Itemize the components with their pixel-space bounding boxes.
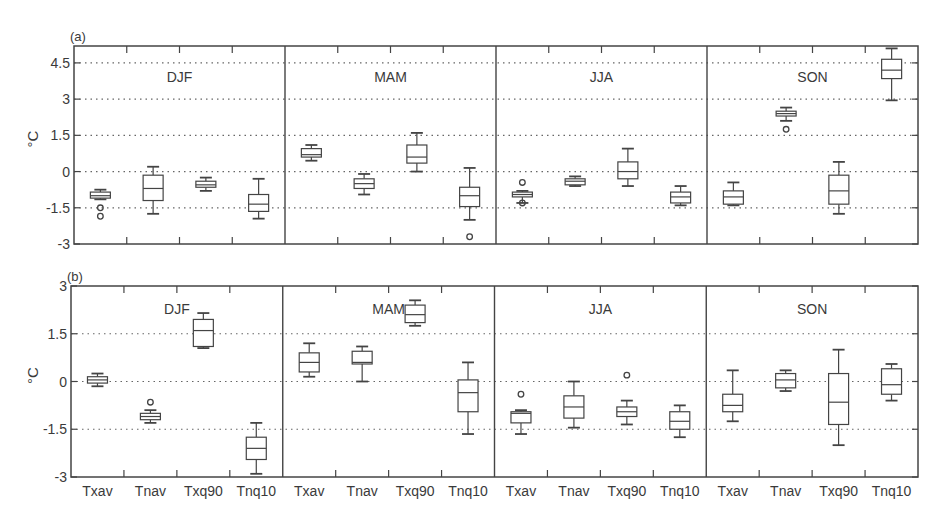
xtick-label: Txq90 [396, 483, 435, 499]
iqr-box [829, 374, 849, 425]
box-mam-tnq10 [458, 362, 478, 434]
box-jja-txq90 [618, 149, 638, 186]
iqr-box [723, 394, 743, 412]
season-label-mam: MAM [372, 301, 405, 317]
season-label-djf: DJF [164, 301, 190, 317]
box-djf-txav [90, 190, 110, 219]
box-son-tnav [776, 370, 796, 391]
box-mam-txav [301, 145, 321, 161]
season-label-mam: MAM [374, 69, 407, 85]
box-mam-tnq10 [460, 168, 480, 240]
y-axis-label: °C [24, 130, 41, 147]
iqr-box [143, 175, 163, 200]
box-jja-tnav [564, 382, 584, 428]
iqr-box [829, 175, 849, 204]
outlier-marker [518, 391, 524, 397]
xtick-label: Txav [294, 483, 324, 499]
box-jja-txav [511, 391, 531, 434]
box-djf-tnav [140, 399, 160, 422]
xtick-label: Tnav [135, 483, 166, 499]
box-jja-txq90 [617, 372, 637, 424]
ytick-label: 0 [59, 374, 67, 390]
season-label-son: SON [797, 301, 827, 317]
iqr-box [882, 59, 902, 78]
iqr-box [90, 192, 110, 198]
box-mam-txq90 [405, 300, 425, 325]
iqr-box [723, 191, 743, 204]
xtick-label: Txav [718, 483, 748, 499]
season-label-son: SON [797, 69, 827, 85]
ytick-label: -3 [55, 469, 68, 485]
iqr-box [405, 305, 425, 323]
iqr-box [249, 195, 269, 212]
xtick-label: Tnav [770, 483, 801, 499]
box-son-tnq10 [882, 48, 902, 100]
outlier-marker [148, 399, 154, 405]
ytick-label: 0 [62, 164, 70, 180]
xtick-label: Txav [82, 483, 112, 499]
box-son-txav [723, 370, 743, 421]
iqr-box [670, 412, 690, 430]
outlier-marker [467, 234, 473, 240]
xtick-label: Tnav [558, 483, 589, 499]
ytick-label: 3 [62, 91, 70, 107]
iqr-box [196, 181, 216, 187]
iqr-box [407, 145, 427, 163]
box-djf-txq90 [193, 313, 213, 348]
panel-b: -3-1.501.53°C(b)DJFTxavTnavTxq90Tnq10MAM… [24, 269, 918, 499]
iqr-box [193, 319, 213, 346]
box-son-txq90 [829, 350, 849, 446]
box-son-tnq10 [882, 364, 902, 401]
y-axis-label: °C [24, 367, 41, 384]
iqr-box [882, 369, 902, 394]
iqr-box [776, 374, 796, 388]
xtick-label: Tnq10 [236, 483, 276, 499]
panel-label: (b) [67, 269, 83, 284]
panel-label: (a) [70, 29, 86, 44]
ytick-label: -1.5 [46, 200, 70, 216]
season-label-djf: DJF [167, 69, 193, 85]
outlier-marker [624, 372, 630, 378]
box-son-tnav [776, 108, 796, 133]
box-jja-txav [512, 180, 532, 206]
xtick-label: Tnq10 [448, 483, 488, 499]
outlier-marker [783, 127, 789, 133]
xtick-label: Txq90 [607, 483, 646, 499]
box-jja-tnq10 [670, 405, 690, 437]
box-mam-tnav [354, 174, 374, 195]
iqr-box [458, 380, 478, 412]
xtick-label: Txav [506, 483, 536, 499]
iqr-box [671, 192, 691, 203]
outlier-marker [98, 213, 104, 219]
xtick-label: Tnq10 [872, 483, 912, 499]
box-mam-txav [299, 343, 319, 376]
xtick-label: Tnav [347, 483, 378, 499]
box-djf-txav [87, 374, 107, 387]
iqr-box [618, 162, 638, 179]
figure: -3-1.501.534.5°C(a)DJFMAMJJASON-3-1.501.… [0, 0, 945, 519]
ytick-label: 4.5 [51, 55, 71, 71]
box-mam-tnav [352, 346, 372, 381]
box-mam-txq90 [407, 133, 427, 172]
xtick-label: Tnq10 [660, 483, 700, 499]
iqr-box [301, 149, 321, 157]
xtick-label: Txq90 [819, 483, 858, 499]
box-djf-txq90 [196, 178, 216, 191]
panel-a: -3-1.501.534.5°C(a)DJFMAMJJASON [24, 29, 918, 252]
box-son-txav [723, 182, 743, 205]
box-djf-tnav [143, 167, 163, 214]
ytick-label: 1.5 [51, 127, 71, 143]
ytick-label: -3 [58, 236, 71, 252]
box-djf-tnq10 [246, 423, 266, 474]
box-djf-tnq10 [249, 179, 269, 219]
box-son-txq90 [829, 162, 849, 214]
outlier-marker [520, 180, 526, 186]
box-jja-tnq10 [671, 186, 691, 205]
ytick-label: 3 [59, 278, 67, 294]
iqr-box [460, 187, 480, 206]
boxplot-figure: -3-1.501.534.5°C(a)DJFMAMJJASON-3-1.501.… [0, 0, 945, 519]
xtick-label: Txq90 [184, 483, 223, 499]
iqr-box [565, 179, 585, 185]
season-label-jja: JJA [590, 69, 614, 85]
box-jja-tnav [565, 176, 585, 186]
